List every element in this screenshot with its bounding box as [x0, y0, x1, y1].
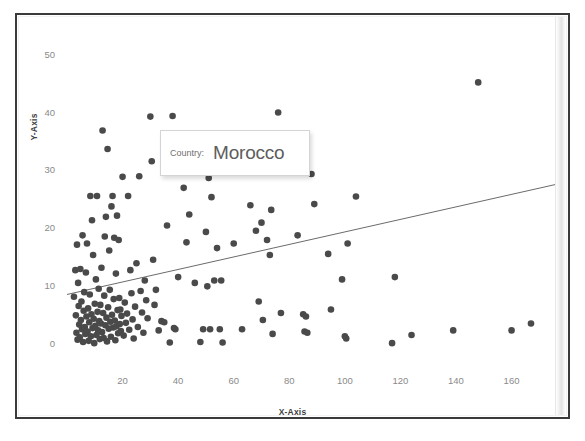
- data-point[interactable]: [94, 309, 101, 316]
- data-point[interactable]: [253, 227, 260, 234]
- data-point[interactable]: [85, 305, 92, 312]
- data-point[interactable]: [123, 320, 130, 327]
- data-point[interactable]: [95, 285, 102, 292]
- data-point[interactable]: [200, 326, 207, 333]
- data-point[interactable]: [112, 337, 119, 344]
- data-point[interactable]: [80, 339, 87, 346]
- data-point[interactable]: [129, 316, 136, 323]
- data-point[interactable]: [87, 193, 94, 200]
- data-point[interactable]: [294, 232, 301, 239]
- data-point[interactable]: [475, 79, 482, 86]
- data-point[interactable]: [124, 310, 131, 317]
- data-point[interactable]: [269, 331, 276, 338]
- data-point[interactable]: [105, 304, 112, 311]
- data-point[interactable]: [150, 256, 157, 263]
- data-point[interactable]: [88, 333, 95, 340]
- data-point[interactable]: [84, 240, 91, 247]
- data-point[interactable]: [98, 265, 105, 272]
- data-point[interactable]: [275, 109, 282, 116]
- data-point[interactable]: [141, 277, 148, 284]
- data-point[interactable]: [116, 295, 123, 302]
- data-point[interactable]: [86, 291, 93, 298]
- data-point[interactable]: [83, 269, 90, 276]
- data-point[interactable]: [247, 202, 254, 209]
- data-point[interactable]: [114, 212, 121, 219]
- data-point[interactable]: [304, 329, 311, 336]
- data-point[interactable]: [135, 324, 142, 331]
- data-point[interactable]: [75, 280, 82, 287]
- data-point[interactable]: [78, 298, 85, 305]
- data-point[interactable]: [103, 214, 110, 221]
- data-point[interactable]: [151, 302, 158, 309]
- data-point[interactable]: [311, 201, 318, 208]
- data-point[interactable]: [94, 193, 101, 200]
- data-point[interactable]: [260, 317, 267, 324]
- vertical-scrollbar[interactable]: [555, 17, 565, 415]
- data-point[interactable]: [130, 335, 137, 342]
- data-point[interactable]: [353, 193, 360, 200]
- data-point[interactable]: [91, 300, 98, 307]
- data-point[interactable]: [214, 245, 221, 252]
- data-point[interactable]: [217, 326, 224, 333]
- data-point[interactable]: [204, 283, 211, 290]
- data-point[interactable]: [116, 321, 123, 328]
- data-point[interactable]: [192, 280, 199, 287]
- data-point[interactable]: [104, 146, 111, 153]
- data-point[interactable]: [264, 237, 271, 244]
- data-point[interactable]: [125, 193, 132, 200]
- data-point[interactable]: [175, 274, 182, 281]
- data-point[interactable]: [139, 309, 146, 316]
- data-point[interactable]: [97, 302, 104, 309]
- data-point[interactable]: [108, 203, 115, 210]
- data-point[interactable]: [167, 339, 174, 346]
- data-point[interactable]: [148, 158, 155, 165]
- data-point[interactable]: [144, 315, 151, 322]
- data-point[interactable]: [389, 340, 396, 347]
- data-point[interactable]: [127, 267, 134, 274]
- data-point[interactable]: [172, 326, 179, 333]
- data-point[interactable]: [528, 320, 535, 327]
- data-point[interactable]: [450, 327, 457, 334]
- data-point[interactable]: [278, 310, 285, 317]
- data-point[interactable]: [344, 240, 351, 247]
- data-point[interactable]: [408, 332, 415, 339]
- data-point[interactable]: [109, 311, 116, 318]
- data-point[interactable]: [161, 319, 168, 326]
- data-point[interactable]: [71, 293, 78, 300]
- data-point[interactable]: [133, 260, 140, 267]
- data-point[interactable]: [77, 266, 84, 273]
- data-point[interactable]: [89, 217, 96, 224]
- data-point[interactable]: [230, 240, 237, 247]
- data-point[interactable]: [164, 222, 171, 229]
- data-point[interactable]: [106, 287, 113, 294]
- data-point[interactable]: [267, 252, 274, 259]
- data-point[interactable]: [186, 211, 193, 218]
- data-point[interactable]: [180, 185, 187, 192]
- data-point[interactable]: [99, 329, 106, 336]
- data-point[interactable]: [211, 277, 218, 284]
- data-point[interactable]: [303, 313, 310, 320]
- data-point[interactable]: [74, 241, 81, 248]
- data-point[interactable]: [239, 326, 246, 333]
- data-point[interactable]: [101, 233, 108, 240]
- data-point[interactable]: [508, 327, 515, 334]
- data-point[interactable]: [328, 306, 335, 313]
- data-point[interactable]: [155, 327, 162, 334]
- data-point[interactable]: [93, 276, 100, 283]
- data-point[interactable]: [255, 298, 262, 305]
- data-point[interactable]: [339, 276, 346, 283]
- data-point[interactable]: [268, 207, 275, 214]
- data-point[interactable]: [90, 252, 97, 259]
- data-point[interactable]: [110, 296, 117, 303]
- data-point[interactable]: [91, 340, 98, 347]
- data-point[interactable]: [147, 113, 154, 120]
- data-point[interactable]: [117, 306, 124, 313]
- data-point[interactable]: [73, 312, 80, 319]
- data-point[interactable]: [343, 335, 350, 342]
- data-point[interactable]: [121, 299, 128, 306]
- data-point[interactable]: [143, 297, 150, 304]
- data-point[interactable]: [218, 277, 225, 284]
- data-point[interactable]: [203, 229, 210, 236]
- data-point[interactable]: [258, 219, 265, 226]
- data-point[interactable]: [169, 113, 176, 120]
